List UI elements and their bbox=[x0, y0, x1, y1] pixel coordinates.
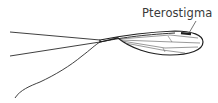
pterostigma-label: Pterostigma bbox=[142, 6, 212, 20]
lower-curved-line bbox=[15, 42, 100, 98]
pterostigma-mark bbox=[181, 33, 191, 34]
crossvein-1 bbox=[168, 36, 172, 42]
upper-line bbox=[10, 32, 100, 40]
label-leader-line bbox=[189, 21, 196, 33]
middle-line bbox=[10, 42, 100, 56]
